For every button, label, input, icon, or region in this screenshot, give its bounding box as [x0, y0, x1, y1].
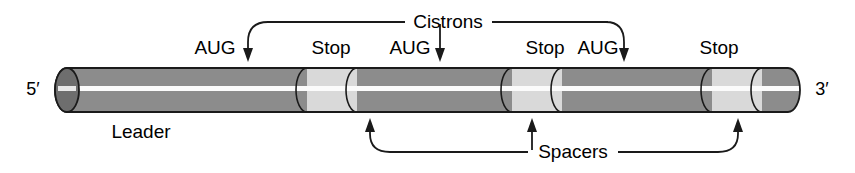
cistrons-label: Cistrons — [413, 12, 483, 31]
codon-label-stop-1: Stop — [311, 38, 350, 57]
leader-label: Leader — [111, 122, 170, 141]
polycistronic-mrna-figure: Cistrons Spacers Leader 5′ 3′ AUG Stop A… — [0, 0, 855, 173]
codon-label-aug-3: AUG — [577, 38, 618, 57]
codon-label-aug-1: AUG — [194, 38, 235, 57]
five-prime-label: 5′ — [26, 80, 39, 98]
spacers-arrowhead-right — [733, 118, 743, 132]
codon-label-stop-3: Stop — [699, 38, 738, 57]
cylinder-highlight-stripe — [40, 86, 815, 91]
spacers-leader-right — [700, 128, 738, 152]
spacers-label: Spacers — [538, 142, 608, 161]
tube-segments — [40, 66, 815, 114]
codon-label-stop-2: Stop — [525, 38, 564, 57]
cistrons-arrowhead-left — [243, 48, 253, 62]
cistrons-arrowhead-right — [619, 48, 629, 62]
five-prime-cap-highlight — [58, 86, 76, 91]
spacers-arrowhead-middle — [527, 118, 537, 132]
codon-label-aug-2: AUG — [389, 38, 430, 57]
cistrons-arrowhead-middle — [435, 48, 445, 62]
three-prime-label: 3′ — [815, 80, 828, 98]
spacers-arrowhead-left — [365, 118, 375, 132]
